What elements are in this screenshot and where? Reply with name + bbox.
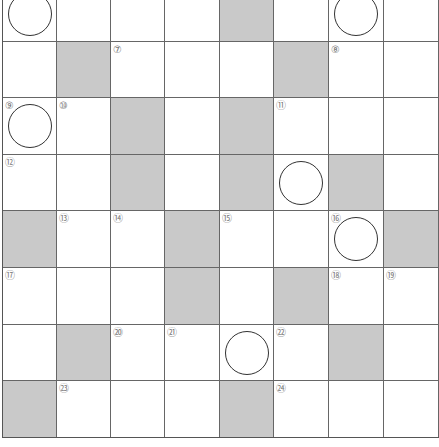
clue-number: ⑦ xyxy=(113,44,122,55)
block-cell xyxy=(329,154,384,210)
answer-cell[interactable]: ⑱ xyxy=(329,267,384,324)
block-cell xyxy=(57,324,111,380)
answer-cell[interactable]: ⑳ xyxy=(111,324,165,380)
clue-number: ⑫ xyxy=(5,157,15,168)
highlight-circle-icon xyxy=(8,0,52,36)
highlight-circle-icon xyxy=(334,0,378,36)
answer-cell[interactable] xyxy=(274,0,329,41)
answer-cell[interactable] xyxy=(329,380,384,437)
answer-cell[interactable] xyxy=(165,154,220,210)
answer-cell[interactable] xyxy=(274,154,329,210)
block-cell xyxy=(220,0,274,41)
answer-cell[interactable] xyxy=(111,267,165,324)
block-cell xyxy=(57,41,111,97)
answer-cell[interactable] xyxy=(165,380,220,437)
answer-cell[interactable]: ㉑ xyxy=(165,324,220,380)
clue-number: ⑰ xyxy=(5,270,15,281)
answer-cell[interactable]: ⑨ xyxy=(3,97,57,154)
answer-cell[interactable] xyxy=(3,0,57,41)
block-cell xyxy=(165,267,220,324)
highlight-circle-icon xyxy=(8,104,52,148)
answer-cell[interactable]: ⑧ xyxy=(329,41,384,97)
block-cell xyxy=(165,210,220,267)
highlight-circle-icon xyxy=(279,161,323,205)
answer-cell[interactable] xyxy=(329,97,384,154)
answer-cell[interactable]: ⑰ xyxy=(3,267,57,324)
answer-cell[interactable] xyxy=(384,154,439,210)
clue-number: ㉒ xyxy=(276,327,286,338)
answer-cell[interactable] xyxy=(57,267,111,324)
block-cell xyxy=(220,380,274,437)
clue-number: ⑲ xyxy=(386,270,396,281)
answer-cell[interactable] xyxy=(220,267,274,324)
clue-number: ⑱ xyxy=(331,270,341,281)
answer-cell[interactable]: ⑲ xyxy=(384,267,439,324)
answer-cell[interactable] xyxy=(384,324,439,380)
clue-number: ⑯ xyxy=(331,213,341,224)
answer-cell[interactable] xyxy=(384,97,439,154)
block-cell xyxy=(384,210,439,267)
answer-cell[interactable]: ㉓ xyxy=(57,380,111,437)
answer-cell[interactable] xyxy=(57,154,111,210)
answer-cell[interactable] xyxy=(165,0,220,41)
answer-cell[interactable]: ⑭ xyxy=(111,210,165,267)
answer-cell[interactable]: ⑯ xyxy=(329,210,384,267)
crossword-grid: ⑦⑧⑨⑩⑪⑫⑬⑭⑮⑯⑰⑱⑲⑳㉑㉒㉓㉔ xyxy=(2,0,439,438)
answer-cell[interactable] xyxy=(165,41,220,97)
clue-number: ⑩ xyxy=(59,100,68,111)
highlight-circle-icon xyxy=(334,217,378,261)
answer-cell[interactable]: ㉒ xyxy=(274,324,329,380)
answer-cell[interactable] xyxy=(384,0,439,41)
clue-number: ㉑ xyxy=(167,327,177,338)
answer-cell[interactable] xyxy=(329,0,384,41)
block-cell xyxy=(3,210,57,267)
answer-cell[interactable]: ⑩ xyxy=(57,97,111,154)
clue-number: ⑬ xyxy=(59,213,69,224)
answer-cell[interactable]: ⑬ xyxy=(57,210,111,267)
answer-cell[interactable] xyxy=(384,380,439,437)
answer-cell[interactable] xyxy=(384,41,439,97)
block-cell xyxy=(111,154,165,210)
clue-number: ⑪ xyxy=(276,100,286,111)
block-cell xyxy=(3,380,57,437)
clue-number: ⑳ xyxy=(113,327,123,338)
answer-cell[interactable] xyxy=(220,41,274,97)
answer-cell[interactable] xyxy=(3,324,57,380)
answer-cell[interactable] xyxy=(111,0,165,41)
answer-cell[interactable] xyxy=(111,380,165,437)
answer-cell[interactable] xyxy=(220,324,274,380)
block-cell xyxy=(329,324,384,380)
highlight-circle-icon xyxy=(225,331,269,375)
block-cell xyxy=(220,154,274,210)
answer-cell[interactable]: ⑫ xyxy=(3,154,57,210)
clue-number: ㉓ xyxy=(59,383,69,394)
block-cell xyxy=(274,267,329,324)
block-cell xyxy=(274,41,329,97)
clue-number: ⑧ xyxy=(331,44,340,55)
answer-cell[interactable]: ⑮ xyxy=(220,210,274,267)
answer-cell[interactable]: ⑦ xyxy=(111,41,165,97)
answer-cell[interactable] xyxy=(274,210,329,267)
clue-number: ㉔ xyxy=(276,383,286,394)
answer-cell[interactable] xyxy=(165,97,220,154)
answer-cell[interactable] xyxy=(57,0,111,41)
clue-number: ⑭ xyxy=(113,213,123,224)
answer-cell[interactable]: ⑪ xyxy=(274,97,329,154)
clue-number: ⑨ xyxy=(5,100,14,111)
block-cell xyxy=(220,97,274,154)
block-cell xyxy=(111,97,165,154)
answer-cell[interactable] xyxy=(3,41,57,97)
clue-number: ⑮ xyxy=(222,213,232,224)
answer-cell[interactable]: ㉔ xyxy=(274,380,329,437)
